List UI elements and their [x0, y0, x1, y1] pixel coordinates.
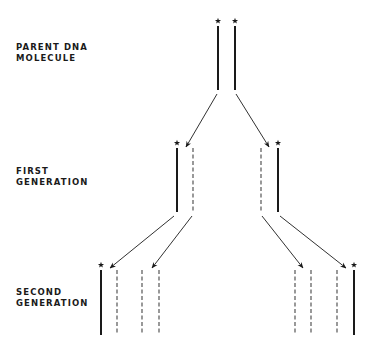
- replication-arrow: [110, 216, 174, 268]
- arrows-layer: [110, 94, 346, 268]
- replication-diagram: [0, 0, 371, 349]
- star-icon: [232, 18, 238, 24]
- star-icon: [275, 140, 281, 146]
- star-icon: [98, 262, 104, 268]
- replication-arrow: [262, 216, 303, 268]
- strands-layer: [98, 18, 357, 335]
- replication-arrow: [236, 94, 269, 147]
- star-icon: [351, 262, 357, 268]
- star-icon: [174, 140, 180, 146]
- replication-arrow: [186, 94, 217, 147]
- replication-arrow: [152, 216, 192, 268]
- replication-arrow: [280, 216, 346, 268]
- star-icon: [215, 18, 221, 24]
